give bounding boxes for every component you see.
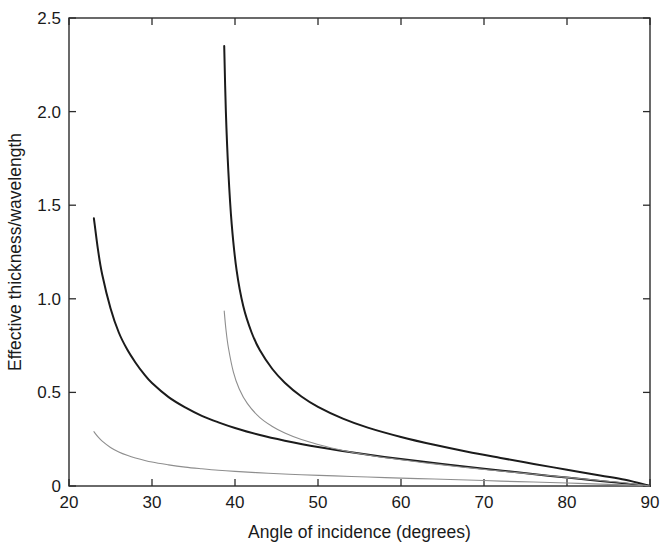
y-axis-label: Effective thickness/wavelength [5,133,25,371]
y-tick-label-2.5: 2.5 [37,9,61,28]
y-tick-label-1.0: 1.0 [37,290,61,309]
x-tick-label-50: 50 [309,493,328,512]
x-tick-label-80: 80 [558,493,577,512]
chart-figure: 2030405060708090 00.51.01.52.02.5 Angle … [0,0,666,552]
x-tick-label-90: 90 [641,493,660,512]
x-axis-label: Angle of incidence (degrees) [248,522,471,542]
y-tick-label-0: 0 [52,477,61,496]
y-tick-label-2.0: 2.0 [37,103,61,122]
x-tick-label-70: 70 [475,493,494,512]
y-tick-label-1.5: 1.5 [37,196,61,215]
x-tick-label-40: 40 [226,493,245,512]
x-tick-label-60: 60 [392,493,411,512]
x-tick-label-30: 30 [143,493,162,512]
chart-page: 2030405060708090 00.51.01.52.02.5 Angle … [0,0,666,552]
x-tick-label-20: 20 [60,493,79,512]
y-tick-label-0.5: 0.5 [37,383,61,402]
